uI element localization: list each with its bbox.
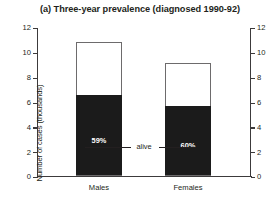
bar-total-males[interactable]: 59%: [76, 42, 122, 176]
y-tick-label-right-12: 12: [257, 24, 265, 32]
y-tick-right-0: [251, 177, 256, 178]
bar-total-females[interactable]: 60%: [165, 63, 211, 176]
y-tick-label-right-8: 8: [257, 74, 261, 82]
bar-label-pct-females: 60%: [166, 142, 210, 149]
bar-segment-alive-males[interactable]: 59%: [76, 95, 122, 175]
chart-figure: (a) Three-year prevalence (diagnosed 199…: [0, 0, 280, 201]
y-tick-label-right-0: 0: [257, 173, 261, 181]
y-tick-label-right-4: 4: [257, 124, 261, 132]
x-tick-label-males: Males: [56, 183, 142, 192]
y-tick-right-8: [251, 78, 256, 79]
y-tick-label-left-10: 10: [23, 49, 31, 57]
y-tick-label-left-8: 8: [27, 74, 31, 82]
y-tick-label-right-6: 6: [257, 99, 261, 107]
y-tick-label-left-6: 6: [27, 99, 31, 107]
y-tick-left-12: [33, 28, 38, 29]
plot-area: 12 10 8 6 4 2 0 12 10 8 6 4 2 0 Number o…: [37, 28, 251, 177]
x-axis-line: [37, 176, 252, 177]
y-tick-right-6: [251, 103, 256, 104]
y-tick-label-left-12: 12: [23, 24, 31, 32]
y-tick-label-right-2: 2: [257, 149, 261, 157]
chart-title: (a) Three-year prevalence (diagnosed 199…: [0, 4, 280, 14]
y-tick-label-left-2: 2: [27, 149, 31, 157]
y-tick-left-10: [33, 53, 38, 54]
y-tick-label-left-4: 4: [27, 124, 31, 132]
y-tick-label-left-0: 0: [27, 173, 31, 181]
bar-segment-alive-females[interactable]: 60%: [165, 106, 211, 174]
y-axis-title-text: Number of cases (thousands): [35, 58, 44, 201]
y-tick-right-12: [251, 28, 256, 29]
x-tick-label-females: Females: [145, 183, 231, 192]
y-tick-right-10: [251, 53, 256, 54]
y-tick-label-right-10: 10: [257, 49, 265, 57]
y-tick-right-2: [251, 152, 256, 153]
y-tick-right-4: [251, 127, 256, 128]
bar-label-pct-males: 59%: [77, 137, 121, 144]
